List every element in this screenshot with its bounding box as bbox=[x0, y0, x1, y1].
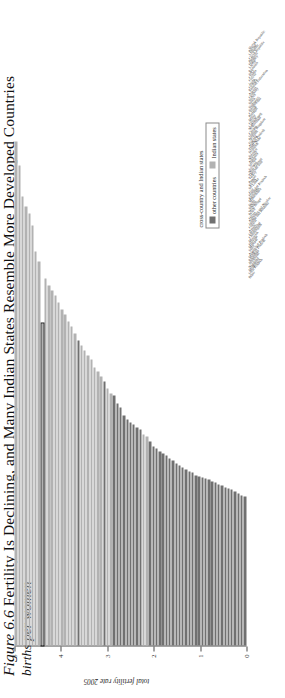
bar-row bbox=[119, 45, 121, 645]
bar bbox=[80, 345, 82, 645]
chart-legend: cross-country and Indian states other co… bbox=[196, 78, 219, 228]
legend-item-indian-states: Indian states bbox=[209, 127, 216, 168]
bar bbox=[191, 472, 193, 645]
bar bbox=[227, 488, 229, 645]
bar bbox=[54, 295, 56, 645]
bar-row bbox=[158, 45, 160, 645]
bar-row bbox=[24, 45, 26, 645]
legend-title: cross-country and Indian states bbox=[196, 78, 203, 228]
bar bbox=[86, 355, 88, 645]
bar-row bbox=[41, 45, 43, 645]
bar-row bbox=[112, 45, 114, 645]
bar-row bbox=[161, 45, 163, 645]
bar bbox=[181, 467, 183, 645]
bar bbox=[93, 367, 95, 645]
axis-tick bbox=[200, 646, 201, 651]
bar bbox=[18, 165, 20, 645]
bar-row bbox=[73, 45, 75, 645]
bar-row bbox=[122, 45, 124, 645]
bar bbox=[73, 333, 75, 645]
bar-row bbox=[103, 45, 105, 645]
bar bbox=[126, 419, 128, 645]
bar-row bbox=[14, 45, 16, 645]
bar bbox=[129, 422, 131, 645]
bar bbox=[240, 495, 242, 645]
bar bbox=[178, 465, 180, 645]
legend-box: other countries Indian states bbox=[205, 122, 219, 228]
bar-row bbox=[129, 45, 131, 645]
bar bbox=[194, 475, 196, 645]
bar-row bbox=[44, 45, 46, 645]
bar-row bbox=[80, 45, 82, 645]
bar bbox=[112, 395, 114, 645]
bar-row bbox=[93, 45, 95, 645]
bar bbox=[90, 359, 92, 645]
bar-row bbox=[233, 45, 235, 645]
bar bbox=[106, 388, 108, 645]
bar bbox=[103, 381, 105, 645]
bar bbox=[70, 326, 72, 645]
bar bbox=[197, 476, 199, 645]
bar bbox=[44, 278, 46, 645]
bar bbox=[119, 407, 121, 645]
bar bbox=[237, 493, 239, 645]
bar bbox=[204, 478, 206, 645]
bar-row bbox=[227, 45, 229, 645]
bar-row bbox=[168, 45, 170, 645]
bar bbox=[21, 196, 23, 645]
bar bbox=[28, 213, 30, 645]
bar-row bbox=[63, 45, 65, 645]
bar bbox=[220, 485, 222, 645]
bar-row bbox=[83, 45, 85, 645]
bar bbox=[171, 460, 173, 645]
bar-row bbox=[175, 45, 177, 645]
bar bbox=[155, 448, 157, 645]
bar-row bbox=[54, 45, 56, 645]
bar-row bbox=[96, 45, 98, 645]
bar bbox=[34, 251, 36, 645]
bar bbox=[99, 376, 101, 645]
axis-tick bbox=[60, 646, 61, 651]
bar bbox=[175, 463, 177, 645]
value-axis: 012345 total fertility rate 2005 bbox=[0, 645, 260, 698]
bar-row bbox=[132, 45, 134, 645]
legend-label-indian-states: Indian states bbox=[209, 127, 216, 158]
bar bbox=[132, 424, 134, 645]
bar-row bbox=[237, 45, 239, 645]
bar bbox=[145, 436, 147, 645]
bar-row bbox=[243, 45, 245, 645]
bar-row bbox=[99, 45, 101, 645]
axis-tick bbox=[107, 646, 108, 651]
bar bbox=[142, 434, 144, 645]
bar-row bbox=[86, 45, 88, 645]
bar bbox=[139, 429, 141, 645]
axis-tick bbox=[246, 646, 247, 651]
bar bbox=[31, 225, 33, 645]
bar-row bbox=[240, 45, 242, 645]
axis-tick-label: 0 bbox=[243, 654, 250, 698]
bar-row bbox=[37, 45, 39, 645]
bar bbox=[77, 340, 79, 645]
bar bbox=[148, 441, 150, 645]
bar-row bbox=[148, 45, 150, 645]
bar-row bbox=[67, 45, 69, 645]
bar bbox=[243, 496, 245, 645]
bar-row bbox=[21, 45, 23, 645]
bar-row bbox=[60, 45, 62, 645]
bar bbox=[63, 314, 65, 645]
bar-row bbox=[152, 45, 154, 645]
axis-tick bbox=[153, 646, 154, 651]
bar bbox=[14, 141, 16, 645]
bar bbox=[201, 477, 203, 645]
bar bbox=[161, 453, 163, 645]
legend-label-other-countries: other countries bbox=[209, 177, 216, 214]
bar bbox=[165, 455, 167, 645]
bar-row bbox=[155, 45, 157, 645]
axis-title: total fertility rate 2005 bbox=[16, 676, 216, 684]
bar-chart-plot: 012345 total fertility rate 2005 Slovak … bbox=[0, 0, 285, 698]
bar-row bbox=[178, 45, 180, 645]
axis-tick bbox=[14, 646, 15, 651]
legend-item-other-countries: other countries bbox=[209, 177, 216, 223]
bar-row bbox=[109, 45, 111, 645]
bar-row bbox=[191, 45, 193, 645]
